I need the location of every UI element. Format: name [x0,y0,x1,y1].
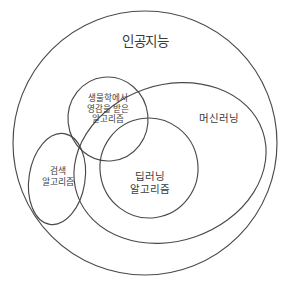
set-ellipse-machine-learning [52,57,288,268]
set-label-bio-inspired: 생물학에서 영감을 받은 알고리즘 [62,93,154,125]
set-circle-ai [13,11,277,275]
set-label-ai: 인공지능 [0,34,291,50]
set-label-deep-learning: 딥러닝 알고리즘 [104,170,196,196]
set-ellipse-deep-learning [94,112,205,225]
venn-diagram: 인공지능 머신러닝 생물학에서 영감을 받은 알고리즘 딥러닝 알고리즘 검색 … [0,0,291,284]
set-label-machine-learning: 머신러닝 [176,112,262,124]
set-label-search: 검색 알고리즘 [21,166,95,188]
